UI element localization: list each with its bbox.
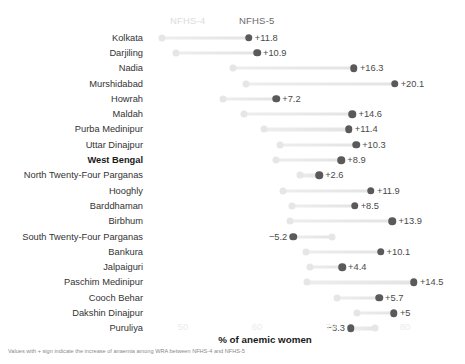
chart-row: Barddhaman+8.5 <box>0 198 465 213</box>
delta-label: +10.9 <box>263 48 287 58</box>
connector-line <box>280 143 356 146</box>
nfhs5-dot[interactable] <box>391 80 399 88</box>
nfhs5-dot[interactable] <box>345 126 353 134</box>
nfhs5-dot[interactable] <box>338 156 346 164</box>
row-label: Purba Medinipur <box>75 124 143 134</box>
delta-label: +11.9 <box>377 186 400 196</box>
nfhs5-dot[interactable] <box>410 279 418 287</box>
delta-label: +7.2 <box>282 94 300 104</box>
x-axis-tick: 70 <box>326 321 337 332</box>
nfhs4-dot[interactable] <box>276 141 283 148</box>
nfhs4-dot[interactable] <box>306 264 313 271</box>
connector-line <box>290 220 393 223</box>
chart-row: Cooch Behar+5.7 <box>0 290 465 305</box>
delta-label: +4.4 <box>348 262 366 272</box>
nfhs4-dot[interactable] <box>303 279 310 286</box>
nfhs4-dot[interactable] <box>288 202 295 209</box>
chart-row: Kolkata+11.8 <box>0 30 465 45</box>
nfhs4-dot[interactable] <box>158 34 165 41</box>
chart-row: Purba Medinipur+11.4 <box>0 122 465 137</box>
nfhs5-dot[interactable] <box>315 172 323 180</box>
nfhs5-dot[interactable] <box>253 49 261 57</box>
x-axis-tick: 60 <box>252 321 263 332</box>
chart-row: Paschim Medinipur+14.5 <box>0 275 465 290</box>
nfhs5-dot[interactable] <box>272 95 280 103</box>
nfhs4-dot[interactable] <box>272 157 279 164</box>
connector-line <box>337 296 379 299</box>
nfhs4-dot[interactable] <box>302 248 309 255</box>
legend-label-nfhs5: NFHS-5 <box>239 15 275 26</box>
nfhs4-dot[interactable] <box>261 126 268 133</box>
connector-line <box>223 97 276 100</box>
nfhs5-dot[interactable] <box>389 217 397 225</box>
nfhs5-dot[interactable] <box>338 263 346 271</box>
nfhs4-dot[interactable] <box>230 65 237 72</box>
nfhs4-dot[interactable] <box>173 49 180 56</box>
chart-row: South Twenty-Four Parganas−5.2 <box>0 229 465 244</box>
nfhs5-dot[interactable] <box>390 309 398 317</box>
chart-row: Hooghly+11.9 <box>0 183 465 198</box>
chart-row: Uttar Dinajpur+10.3 <box>0 137 465 152</box>
delta-label: +5.7 <box>385 293 403 303</box>
delta-label: +13.9 <box>398 216 422 226</box>
row-label: South Twenty-Four Parganas <box>22 232 143 242</box>
nfhs5-dot[interactable] <box>349 110 357 118</box>
row-label: West Bengal <box>87 155 143 165</box>
chart-row: Maldah+14.6 <box>0 107 465 122</box>
nfhs5-dot[interactable] <box>352 141 360 149</box>
delta-label: +11.8 <box>255 33 278 43</box>
nfhs4-dot[interactable] <box>333 294 340 301</box>
chart-row: Darjiling+10.9 <box>0 45 465 60</box>
nfhs5-dot[interactable] <box>245 34 253 42</box>
row-label: Nadia <box>119 63 143 73</box>
nfhs4-dot[interactable] <box>296 172 303 179</box>
delta-label: +8.9 <box>347 155 365 165</box>
delta-label: +2.6 <box>325 170 343 180</box>
nfhs5-dot[interactable] <box>375 294 383 302</box>
connector-line <box>283 189 371 192</box>
delta-label: −5.2 <box>269 232 287 242</box>
legend-label-nfhs4: NFHS-4 <box>170 15 206 26</box>
row-label: Uttar Dinajpur <box>86 140 143 150</box>
row-label: North Twenty-Four Parganas <box>24 170 143 180</box>
chart-row: Jalpaiguri+4.4 <box>0 260 465 275</box>
x-axis-tick: 80 <box>400 321 411 332</box>
connector-line <box>310 266 343 269</box>
delta-label: +14.5 <box>420 277 444 287</box>
chart-row: Birbhum+13.9 <box>0 214 465 229</box>
chart-row: Bankura+10.1 <box>0 244 465 259</box>
nfhs4-dot[interactable] <box>328 233 335 240</box>
nfhs5-dot[interactable] <box>350 64 358 72</box>
nfhs5-dot[interactable] <box>377 248 385 256</box>
delta-label: +10.1 <box>387 247 411 257</box>
nfhs5-dot[interactable] <box>290 233 298 241</box>
chart-row: West Bengal+8.9 <box>0 152 465 167</box>
connector-line <box>264 128 348 131</box>
delta-label: +10.3 <box>362 140 386 150</box>
row-label: Dakshin Dinajpur <box>72 308 143 318</box>
nfhs5-dot[interactable] <box>351 202 359 210</box>
nfhs4-dot[interactable] <box>279 187 286 194</box>
connector-line <box>306 250 381 253</box>
row-label: Cooch Behar <box>89 293 143 303</box>
chart-row: Dakshin Dinajpur+5 <box>0 305 465 320</box>
chart-row: Howrah+7.2 <box>0 91 465 106</box>
nfhs4-dot[interactable] <box>241 111 248 118</box>
row-label: Paschim Medinipur <box>64 277 143 287</box>
x-axis-title: % of anemic women <box>218 334 312 345</box>
delta-label: +5 <box>400 308 411 318</box>
chart-row: Nadia+16.3 <box>0 61 465 76</box>
nfhs4-dot[interactable] <box>219 95 226 102</box>
nfhs5-dot[interactable] <box>367 187 375 195</box>
row-label: Barddhaman <box>90 201 143 211</box>
connector-line <box>293 235 331 238</box>
dumbbell-chart: NFHS-4 NFHS-5 Kolkata+11.8Darjiling+10.9… <box>0 0 465 364</box>
row-label: Murshidabad <box>89 79 143 89</box>
delta-label: +16.3 <box>360 63 384 73</box>
plot-area: Kolkata+11.8Darjiling+10.9Nadia+16.3Murs… <box>0 30 465 320</box>
connector-line <box>162 36 249 39</box>
nfhs4-dot[interactable] <box>242 80 249 87</box>
nfhs4-dot[interactable] <box>286 218 293 225</box>
nfhs4-dot[interactable] <box>353 310 360 317</box>
row-label: Bankura <box>108 247 143 257</box>
